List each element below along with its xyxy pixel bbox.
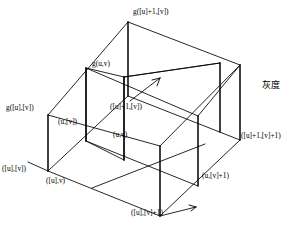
slice-plane-top xyxy=(86,68,124,77)
cap-front-right xyxy=(160,65,240,146)
slice-plane-diag xyxy=(86,141,124,160)
label-point-floorU1-floorV: ([u]+1,[v]) xyxy=(110,103,142,110)
label-point-floorU-floorV: ([u],[v]) xyxy=(2,165,26,172)
cap-top-right xyxy=(128,22,240,65)
label-point-u-floorV: (u,[v]) xyxy=(58,118,77,125)
label-point-floorU-floorV1: ([u],[v]+1) xyxy=(131,209,163,216)
base-edge-top-right xyxy=(128,96,240,140)
axis-v-arrow-line xyxy=(28,162,48,171)
wireframe-svg xyxy=(0,0,301,235)
axis-label-grayscale: 灰度 xyxy=(262,80,274,90)
base-grid-u xyxy=(86,141,198,186)
figure-canvas: g([u]+1,[v]) g(u,v) g([u],[v]) (u,[v]) (… xyxy=(0,0,301,235)
label-point-u-v: (u,v) xyxy=(113,131,127,138)
axis-u-arrow-line xyxy=(160,207,196,216)
label-point-floorU1-floorV1: ([u]+1,[v]+1) xyxy=(241,132,281,139)
cap-u-to-front xyxy=(86,68,198,116)
cap-right-edge xyxy=(198,65,240,116)
label-g-floorU1-floorV: g([u]+1,[v]) xyxy=(133,8,169,15)
cap-interior-cross xyxy=(124,63,220,77)
label-point-u-floorV1: (u,[v]+1) xyxy=(202,172,229,179)
label-point-floorU-v: ([u],v) xyxy=(46,177,65,184)
label-g-floorU-floorV: g([u],[v]) xyxy=(6,104,34,111)
label-g-u-v: g(u,v) xyxy=(92,60,110,67)
